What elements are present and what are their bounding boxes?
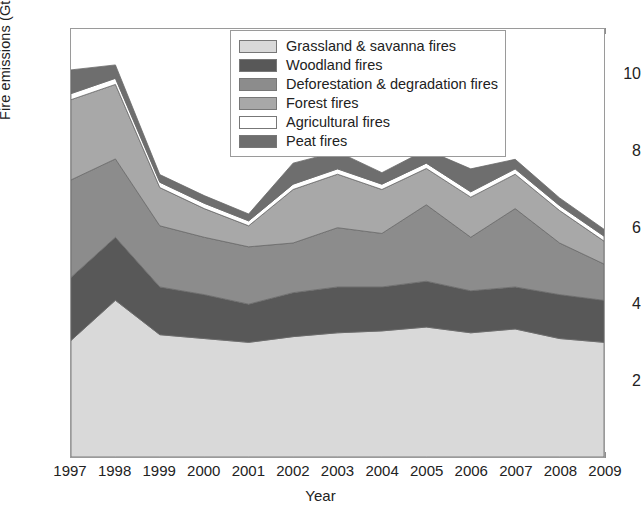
- x-axis-title: Year: [0, 487, 641, 504]
- legend-swatch: [239, 97, 277, 110]
- legend-label: Peat fires: [286, 132, 347, 151]
- legend-label: Forest fires: [286, 94, 359, 113]
- legend-label: Agricultural fires: [286, 113, 390, 132]
- figure-canvas: Fire emissions (Gt CO2 year-1) 246810 19…: [0, 0, 641, 530]
- x-tick-mark-bottom: [605, 452, 606, 458]
- legend-label: Woodland fires: [286, 56, 382, 75]
- y-axis-title-prefix: Fire emissions (Gt CO: [0, 0, 13, 120]
- x-tick-mark-top: [605, 28, 606, 34]
- legend-swatch: [239, 40, 277, 53]
- legend-swatch: [239, 59, 277, 72]
- legend-item: Deforestation & degradation fires: [239, 75, 499, 94]
- legend-item: Woodland fires: [239, 56, 499, 75]
- legend-item: Peat fires: [239, 132, 499, 151]
- legend-item: Forest fires: [239, 94, 499, 113]
- legend-label: Grassland & savanna fires: [286, 37, 456, 56]
- legend-item: Grassland & savanna fires: [239, 37, 499, 56]
- legend-label: Deforestation & degradation fires: [286, 75, 498, 94]
- legend-swatch: [239, 116, 277, 129]
- legend-swatch: [239, 135, 277, 148]
- legend-swatch: [239, 78, 277, 91]
- legend-item: Agricultural fires: [239, 113, 499, 132]
- y-axis-title: Fire emissions (Gt CO2 year-1): [0, 0, 16, 120]
- x-tick-label: 2009: [575, 462, 635, 479]
- chart-legend: Grassland & savanna firesWoodland firesD…: [230, 30, 506, 157]
